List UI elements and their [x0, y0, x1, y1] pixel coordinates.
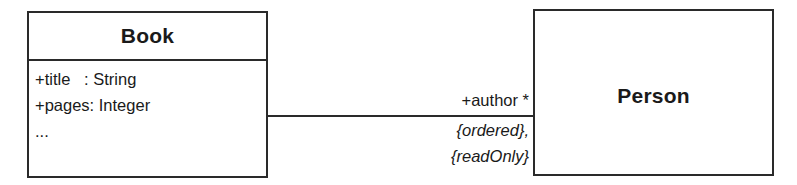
association-constraint-ordered: {ordered}, [457, 121, 529, 140]
association-line [268, 115, 534, 117]
association-role-label: +author * [462, 91, 529, 110]
class-person: Person [533, 9, 774, 176]
association-constraint-readonly: {readOnly} [451, 147, 529, 166]
class-book: Book +title : String +pages: Integer ... [27, 11, 268, 178]
attribute-pages: +pages: Integer [35, 92, 266, 118]
attribute-ellipsis: ... [35, 118, 266, 144]
class-person-name: Person [617, 84, 689, 108]
class-book-name: Book [121, 24, 174, 48]
class-book-attributes: +title : String +pages: Integer ... [29, 61, 266, 144]
attribute-title: +title : String [35, 66, 266, 92]
class-book-name-compartment: Book [29, 13, 266, 61]
